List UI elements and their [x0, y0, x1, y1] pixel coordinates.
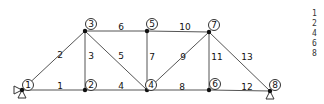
side-list-item: 4	[312, 29, 317, 39]
member-label: 10	[179, 22, 191, 32]
member-label: 12	[241, 82, 252, 92]
member-label: 3	[88, 51, 94, 61]
node-dot	[145, 29, 149, 33]
member-label: 9	[180, 52, 186, 62]
node-label: 2	[88, 80, 94, 90]
member-label: 5	[118, 51, 124, 61]
side-list-item: 8	[312, 49, 317, 59]
truss-node: 7	[207, 20, 220, 35]
truss-supports	[14, 86, 274, 99]
member-label: 7	[149, 52, 155, 62]
member-line	[147, 31, 209, 32]
member-label: 1	[57, 81, 63, 91]
member-label: 4	[118, 81, 124, 91]
member-label: 6	[118, 22, 124, 32]
node-dot	[207, 30, 211, 34]
node-label: 1	[25, 80, 31, 90]
member-label: 8	[179, 82, 185, 92]
truss-node: 8	[268, 80, 281, 94]
side-list-item: 6	[312, 39, 317, 49]
node-label: 8	[272, 80, 278, 90]
node-dot	[83, 29, 87, 33]
truss-member: 9	[147, 32, 209, 90]
node-label: 6	[212, 79, 218, 89]
node-dot	[207, 88, 211, 92]
side-list-item: 1	[312, 9, 317, 19]
member-line	[209, 90, 270, 91]
member-line	[147, 32, 209, 90]
node-label: 4	[148, 80, 154, 90]
side-list-item: 2	[312, 19, 317, 29]
side-list: 1 2 4 6 8	[312, 9, 317, 59]
truss-diagram: 12345678910111213 12345678	[0, 0, 324, 104]
member-label: 13	[241, 52, 252, 62]
node-label: 3	[88, 19, 94, 29]
member-label: 11	[211, 52, 222, 62]
member-label: 2	[57, 50, 63, 60]
node-label: 7	[211, 20, 217, 30]
node-label: 5	[149, 19, 155, 29]
